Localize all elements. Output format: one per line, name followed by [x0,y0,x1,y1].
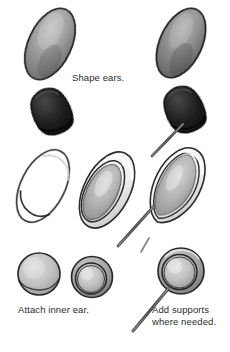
ear-with-inner [68,143,146,237]
ear-outline [6,141,81,230]
instruction-sheet: Shape ears. [0,0,230,352]
oval-right [146,1,215,86]
disc-plain [18,253,60,295]
caption-attach-inner-ear: Attach inner ear. [18,304,89,316]
caption-add-supports: Add supports where needed. [152,304,216,328]
disc-with-inner [72,257,113,298]
row-ear-outlines [0,140,230,258]
cone-left [26,83,78,140]
row-inner-ear-discs [0,243,230,343]
ear-with-support [118,139,216,252]
